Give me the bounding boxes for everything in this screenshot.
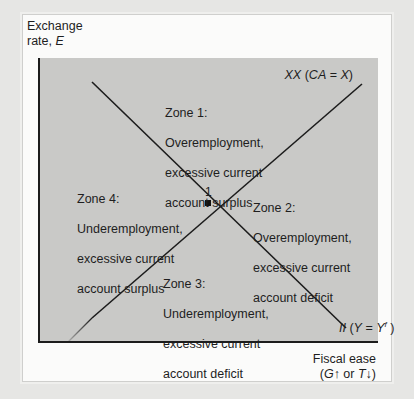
zone-2-title: Zone 2:	[253, 201, 352, 216]
zone-4-line1: Underemployment,	[77, 222, 183, 237]
zone-2-line1: Overemployment,	[253, 231, 352, 246]
xx-curve-faded-tail	[68, 318, 92, 342]
ii-condition-var: Y	[354, 321, 362, 335]
zone-4-title: Zone 4:	[77, 192, 183, 207]
zone-1-line1: Overemployment,	[165, 136, 264, 151]
xx-paren-close: )	[349, 68, 353, 82]
x-axis-label-line1: Fiscal ease	[313, 352, 376, 367]
ii-name: II	[339, 321, 346, 335]
down-arrow-icon: ↓)	[366, 367, 376, 381]
xx-condition-var: CA	[309, 68, 326, 82]
ii-paren-open: (	[346, 321, 354, 335]
x-axis-label: Fiscal ease (G↑ or T↓)	[313, 352, 376, 382]
zone-3-line2: excessive current	[163, 337, 269, 352]
ii-condition-rhs: Y	[376, 321, 384, 335]
x-axis-label-line2: (G↑ or T↓)	[313, 367, 376, 382]
x-axis-var-t: T	[358, 367, 366, 381]
ii-equals: =	[362, 321, 376, 335]
xx-curve-label: XX (CA = X)	[285, 68, 353, 83]
zone-3-line3: account deficit	[163, 367, 269, 382]
ii-paren-close: )	[387, 321, 395, 335]
xx-name: XX	[285, 68, 302, 82]
zone-4-line2: excessive current	[77, 252, 183, 267]
xx-equals: =	[326, 68, 340, 82]
x-axis-var-g: G	[324, 367, 334, 381]
up-arrow-icon: ↑ or	[334, 367, 358, 381]
zone-4-label: Zone 4: Underemployment, excessive curre…	[77, 177, 183, 312]
zone-1-title: Zone 1:	[165, 106, 264, 121]
zone-4-line3: account surplus	[77, 282, 183, 297]
